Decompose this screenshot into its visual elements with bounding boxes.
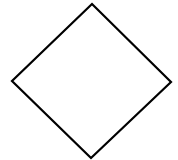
diamond-shape (12, 4, 171, 158)
diamond-shape-svg (0, 0, 178, 160)
diagram-canvas (0, 0, 178, 160)
